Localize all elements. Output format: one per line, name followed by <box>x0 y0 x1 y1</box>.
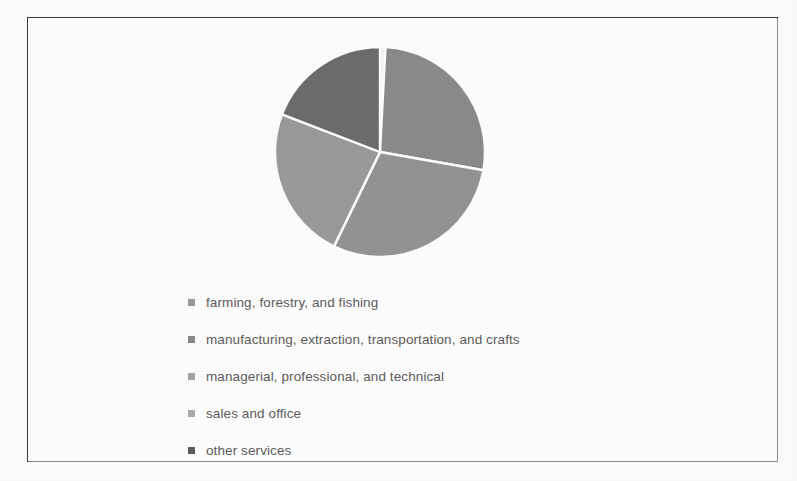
pie-chart-figure: farming, forestry, and fishing: 1manufac… <box>28 18 779 463</box>
legend-swatch-farming <box>188 299 195 306</box>
legend-item-manufacturing[interactable]: manufacturing, extraction, transportatio… <box>188 321 708 358</box>
legend-item-farming[interactable]: farming, forestry, and fishing <box>188 284 708 321</box>
legend-label-managerial: managerial, professional, and technical <box>206 370 444 384</box>
document-frame: farming, forestry, and fishing: 1manufac… <box>27 17 778 462</box>
chart-legend: farming, forestry, and fishing manufactu… <box>188 284 708 469</box>
pie-slice-2[interactable]: manufacturing, extraction, transportatio… <box>380 47 485 170</box>
legend-label-farming: farming, forestry, and fishing <box>206 296 378 310</box>
legend-swatch-sales-and-office <box>188 410 195 417</box>
legend-label-manufacturing: manufacturing, extraction, transportatio… <box>206 333 520 347</box>
legend-label-sales-and-office: sales and office <box>206 407 301 421</box>
pie-svg: farming, forestry, and fishing: 1manufac… <box>271 43 489 261</box>
legend-item-managerial[interactable]: managerial, professional, and technical <box>188 358 708 395</box>
legend-swatch-managerial <box>188 373 195 380</box>
pie-chart-graphic: farming, forestry, and fishing: 1manufac… <box>271 43 489 261</box>
legend-label-other-services: other services <box>206 444 291 458</box>
scanned-page-surface: farming, forestry, and fishing: 1manufac… <box>0 0 797 481</box>
legend-swatch-other-services <box>188 447 195 454</box>
legend-swatch-manufacturing <box>188 336 195 343</box>
legend-item-other-services[interactable]: other services <box>188 432 708 469</box>
legend-item-sales-and-office[interactable]: sales and office <box>188 395 708 432</box>
pie-slice-group: farming, forestry, and fishing: 1manufac… <box>275 47 485 257</box>
